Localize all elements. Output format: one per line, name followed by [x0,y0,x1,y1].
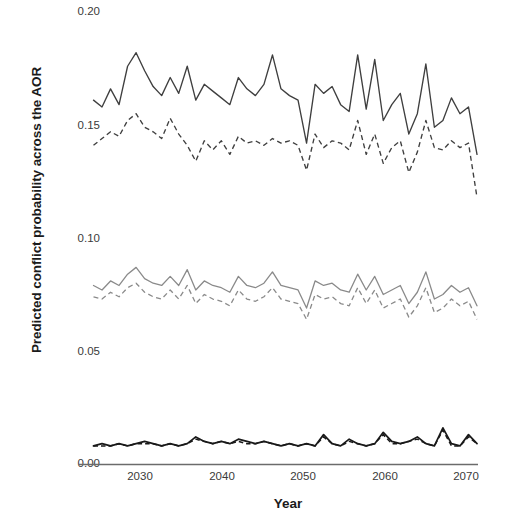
plot-area [0,0,527,530]
series-layer [94,53,478,446]
series-line-mid-solid [94,267,478,308]
series-line-high-solid [94,53,478,155]
series-line-low-solid [94,428,478,446]
series-line-high-dashed [94,114,478,198]
chart-figure: Predicted conflict probability across th… [0,0,527,530]
